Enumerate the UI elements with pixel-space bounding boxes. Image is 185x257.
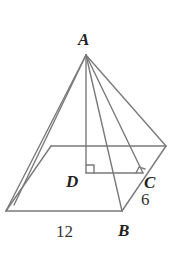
label-A: A: [77, 30, 89, 49]
lateral-edge-back-right: [86, 55, 166, 146]
slant-height-AC: [86, 55, 143, 173]
label-D: D: [65, 172, 78, 191]
base-left-edge: [6, 146, 51, 211]
label-six: 6: [141, 190, 150, 209]
right-angle-marker-D: [86, 165, 94, 173]
pyramid-diagram: A D C 6 12 B: [0, 0, 185, 257]
lateral-edge-front-right: [86, 55, 122, 211]
label-B: B: [117, 221, 129, 240]
label-twelve: 12: [56, 222, 73, 241]
